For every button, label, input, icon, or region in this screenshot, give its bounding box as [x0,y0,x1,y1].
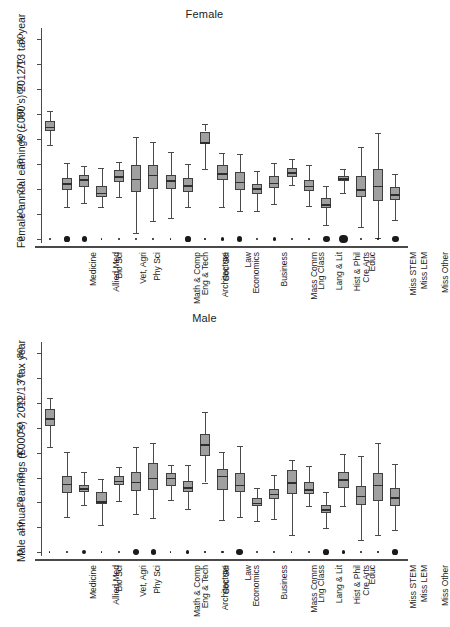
sample-size-dot [273,237,276,240]
whisker-lower [240,190,241,211]
x-tick-label: Phy Sci [152,565,162,594]
median-line [131,179,141,181]
box [235,172,245,190]
whisker-cap-lower [323,528,329,529]
whisker-cap-upper [237,154,243,155]
sample-size-dot [291,551,293,553]
y-tick [37,64,41,65]
whisker-cap-upper [133,137,139,138]
sample-size-dot [392,236,399,243]
whisker-cap-lower [219,207,225,208]
box [373,473,383,501]
whisker-cap-upper [340,169,346,170]
whisker-upper [292,159,293,167]
whisker-cap-upper [219,452,225,453]
whisker-cap-lower [219,520,225,521]
y-axis-spine [41,342,42,556]
whisker-upper [257,488,258,498]
median-line [79,488,89,490]
x-tick-label: Vet, Agri [137,252,147,284]
whisker-upper [361,147,362,176]
whisker-lower [344,181,345,193]
sample-size-dot [49,551,51,553]
whisker-upper [326,492,327,504]
box [321,198,331,208]
whisker-cap-upper [358,147,364,148]
whisker-lower [50,131,51,145]
whisker-cap-upper [64,163,70,164]
whisker-lower [188,492,189,509]
median-line [62,183,72,185]
sample-size-dot [185,236,190,241]
whisker-lower [395,200,396,220]
whisker-lower [257,506,258,521]
x-tick-label: Law [242,252,252,268]
whisker-lower [378,501,379,536]
whisker-cap-lower [289,535,295,536]
whisker-upper [274,475,275,489]
x-tick-label: Eng & Tech [201,565,211,608]
whisker-upper [153,142,154,165]
whisker-lower [205,456,206,482]
y-tick-label: 20 [13,176,27,202]
whisker-cap-lower [358,227,364,228]
x-tick-label: Lang & Lit [334,565,344,603]
whisker-cap-upper [185,465,191,466]
whisker-upper [67,452,68,476]
sample-size-dot [118,551,120,553]
whisker-cap-upper [133,447,139,448]
whisker-cap-lower [150,221,156,222]
whisker-cap-lower [254,211,260,212]
whisker-upper [395,174,396,187]
whisker-cap-upper [168,465,174,466]
sample-size-dot [308,238,310,240]
whisker-upper [205,412,206,435]
median-line [166,478,176,480]
whisker-cap-upper [237,446,243,447]
panel-male: Male Male annual earnings (£000's) 2012/… [0,300,409,627]
whisker-lower [292,494,293,534]
whisker-lower [326,208,327,224]
sample-size-dot [377,551,379,553]
whisker-lower [136,491,137,514]
whisker-lower [67,190,68,206]
whisker-cap-lower [98,207,104,208]
sample-size-dot [82,236,87,241]
median-line [373,485,383,487]
x-tick-label: Medicine [88,252,98,286]
x-tick-label: Educ [367,252,377,271]
whisker-cap-lower [271,204,277,205]
whisker-upper [188,465,189,481]
whisker-cap-lower [116,501,122,502]
y-tick [37,89,41,90]
sample-size-dot [204,238,206,240]
whisker-cap-upper [219,153,225,154]
box [183,481,193,492]
whisker-cap-lower [271,519,277,520]
sample-size-dot [273,551,275,553]
whisker-cap-lower [254,521,260,522]
whisker-cap-lower [358,540,364,541]
x-tick-label: Phy Sci [152,252,162,281]
y-tick-label: 10 [13,201,27,227]
whisker-cap-lower [133,514,139,515]
x-tick-label: Bio Sci [115,565,125,591]
x-tick-label: Miss STEM [408,565,418,608]
whisker-cap-upper [185,164,191,165]
whisker-cap-upper [150,142,156,143]
median-line [304,489,314,491]
whisker-cap-lower [168,218,174,219]
whisker-upper [292,460,293,470]
median-line [217,476,227,478]
whisker-cap-upper [116,467,122,468]
y-tick-label: 60 [13,76,27,102]
whisker-lower [171,486,172,499]
median-line [45,418,55,420]
whisker-lower [240,492,241,517]
box [304,482,314,494]
median-line [356,496,366,498]
y-tick [37,214,41,215]
sample-size-dot [64,236,69,241]
median-line [62,484,72,486]
whisker-lower [326,513,327,528]
